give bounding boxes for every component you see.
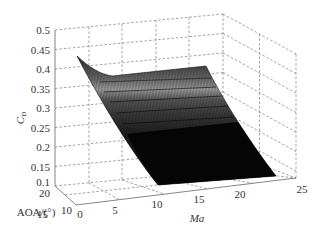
z-axis-label: CD — [14, 112, 28, 124]
svg-text:0.45: 0.45 — [31, 44, 51, 56]
svg-text:0.35: 0.35 — [31, 83, 51, 95]
svg-text:15: 15 — [194, 193, 206, 205]
svg-text:25: 25 — [297, 183, 309, 195]
svg-text:0.2: 0.2 — [36, 141, 50, 153]
surface-plot: 0.5 0.45 0.4 0.35 0.3 0.25 0.2 0.15 0.1 … — [0, 0, 326, 240]
svg-text:20: 20 — [235, 188, 247, 200]
svg-text:5: 5 — [112, 204, 118, 216]
svg-text:20: 20 — [39, 187, 51, 199]
svg-text:0.25: 0.25 — [31, 122, 51, 134]
z-ticks: 0.5 0.45 0.4 0.35 0.3 0.25 0.2 0.15 0.1 — [31, 24, 51, 188]
y-axis-line — [55, 186, 76, 205]
svg-text:10: 10 — [152, 198, 164, 210]
x-axis-label: Ma — [189, 212, 205, 224]
svg-text:0: 0 — [77, 208, 83, 220]
svg-text:0.4: 0.4 — [36, 63, 50, 75]
svg-text:0.5: 0.5 — [36, 24, 50, 36]
y-axis-label: AOA/(°) — [17, 206, 56, 219]
svg-text:0.15: 0.15 — [31, 161, 51, 173]
svg-text:10: 10 — [61, 204, 73, 216]
svg-text:0.3: 0.3 — [36, 102, 50, 114]
cd-surface — [77, 56, 276, 185]
